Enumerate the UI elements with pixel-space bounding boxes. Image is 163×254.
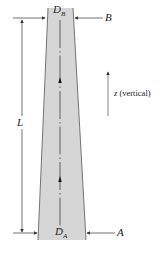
z-axis-description: (vertical) — [119, 88, 150, 98]
top-diameter-symbol: D — [53, 3, 61, 15]
bottom-diameter-subscript: A — [63, 232, 67, 240]
top-diameter-label: DB — [53, 4, 65, 18]
point-a-label: A — [117, 227, 124, 238]
bottom-diameter-label: DA — [55, 226, 67, 240]
point-b-label: B — [105, 12, 112, 23]
length-label: L — [17, 116, 23, 129]
bottom-diameter-symbol: D — [55, 225, 63, 237]
top-diameter-subscript: B — [61, 10, 65, 18]
tapered-column — [38, 8, 86, 240]
tapered-column-diagram — [0, 0, 163, 254]
z-axis-label: z (vertical) — [114, 89, 151, 98]
z-axis-variable: z — [114, 88, 117, 98]
